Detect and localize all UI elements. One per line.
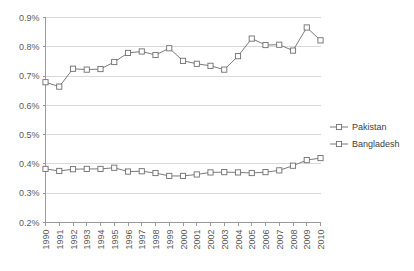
- y-tick-label-0.7%: 0.7%: [19, 71, 40, 81]
- data-point-marker: [139, 169, 144, 174]
- data-point-marker: [57, 168, 62, 173]
- data-point-marker: [249, 170, 254, 175]
- data-point-marker: [222, 67, 227, 72]
- x-tick-label-1994: 1994: [96, 230, 106, 250]
- x-tick-label-2004: 2004: [234, 230, 244, 250]
- x-tick-label-2006: 2006: [261, 230, 271, 250]
- data-point-marker: [194, 61, 199, 66]
- data-point-marker: [153, 170, 158, 175]
- legend-marker-icon: [336, 124, 341, 129]
- x-tick-label-1992: 1992: [69, 230, 79, 250]
- data-point-marker: [43, 80, 48, 85]
- x-tick-label-1995: 1995: [110, 230, 120, 250]
- data-point-marker: [318, 38, 323, 43]
- x-tick-label-2005: 2005: [247, 230, 257, 250]
- x-tick-label-1997: 1997: [137, 230, 147, 250]
- data-point-marker: [304, 25, 309, 30]
- data-point-marker: [208, 63, 213, 68]
- data-point-marker: [277, 42, 282, 47]
- data-point-marker: [98, 166, 103, 171]
- data-point-marker: [167, 46, 172, 51]
- data-point-marker: [235, 170, 240, 175]
- y-tick-label-0.6%: 0.6%: [19, 101, 40, 111]
- data-point-marker: [70, 167, 75, 172]
- data-point-marker: [222, 170, 227, 175]
- data-point-marker: [167, 173, 172, 178]
- x-tick-label-1990: 1990: [41, 230, 51, 250]
- data-point-marker: [290, 48, 295, 53]
- y-tick-label-0.5%: 0.5%: [19, 130, 40, 140]
- y-tick-label-0.4%: 0.4%: [19, 159, 40, 169]
- data-point-marker: [139, 49, 144, 54]
- x-tick-label-2000: 2000: [179, 230, 189, 250]
- data-point-marker: [125, 50, 130, 55]
- chart-container: 0.2%0.3%0.4%0.5%0.6%0.7%0.8%0.9% 1990199…: [0, 0, 414, 271]
- x-axis-tick-marks: [46, 223, 321, 226]
- data-point-marker: [98, 66, 103, 71]
- data-point-marker: [70, 66, 75, 71]
- x-tick-label-2009: 2009: [302, 230, 312, 250]
- x-tick-label-1999: 1999: [165, 230, 175, 250]
- data-point-marker: [318, 155, 323, 160]
- data-point-marker: [125, 169, 130, 174]
- data-point-marker: [180, 173, 185, 178]
- data-point-marker: [180, 58, 185, 63]
- x-tick-label-2008: 2008: [289, 230, 299, 250]
- data-point-marker: [153, 52, 158, 57]
- data-point-marker: [277, 168, 282, 173]
- data-point-marker: [84, 67, 89, 72]
- data-point-marker: [43, 166, 48, 171]
- x-tick-label-2010: 2010: [316, 230, 326, 250]
- legend-label-pakistan: Pakistan: [352, 122, 387, 132]
- x-tick-label-1998: 1998: [151, 230, 161, 250]
- y-tick-label-0.2%: 0.2%: [19, 218, 40, 228]
- data-point-marker: [112, 165, 117, 170]
- data-point-marker: [263, 170, 268, 175]
- data-point-marker: [208, 170, 213, 175]
- data-point-marker: [84, 166, 89, 171]
- x-axis-tick-labels: 1990199119921993199419951996199719981999…: [41, 230, 326, 250]
- line-chart: 0.2%0.3%0.4%0.5%0.6%0.7%0.8%0.9% 1990199…: [0, 0, 414, 271]
- y-tick-label-0.3%: 0.3%: [19, 188, 40, 198]
- x-tick-label-2001: 2001: [192, 230, 202, 250]
- data-point-marker: [194, 172, 199, 177]
- x-tick-label-1993: 1993: [82, 230, 92, 250]
- x-tick-label-2002: 2002: [206, 230, 216, 250]
- data-point-marker: [263, 42, 268, 47]
- data-point-marker: [304, 158, 309, 163]
- x-tick-label-2007: 2007: [275, 230, 285, 250]
- data-point-marker: [235, 54, 240, 59]
- legend-label-bangladesh: Bangladesh: [352, 139, 400, 149]
- data-point-marker: [290, 163, 295, 168]
- x-tick-label-1991: 1991: [55, 230, 65, 250]
- y-tick-label-0.8%: 0.8%: [19, 42, 40, 52]
- data-point-marker: [249, 36, 254, 41]
- x-tick-label-1996: 1996: [124, 230, 134, 250]
- x-tick-label-2003: 2003: [220, 230, 230, 250]
- legend-marker-icon: [336, 141, 341, 146]
- data-point-marker: [112, 59, 117, 64]
- y-tick-label-0.9%: 0.9%: [19, 13, 40, 23]
- data-point-marker: [57, 84, 62, 89]
